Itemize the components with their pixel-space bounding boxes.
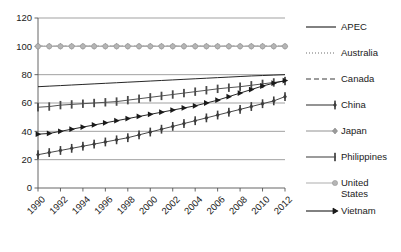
marker-bar: [172, 90, 174, 98]
y-tick-label-20: 20: [21, 154, 32, 165]
legend-label: Australia: [341, 47, 379, 58]
legend-label: Japan: [341, 125, 367, 136]
marker-circle: [148, 44, 153, 49]
marker-bar: [138, 95, 140, 103]
marker-bar: [48, 102, 50, 110]
marker-bar: [116, 97, 118, 105]
marker-bar: [206, 86, 208, 94]
marker-bar: [127, 96, 129, 104]
marker-bar: [104, 98, 106, 106]
marker-circle: [92, 44, 97, 49]
legend-label: Philippines: [341, 151, 387, 162]
marker-circle: [332, 180, 337, 185]
legend-label: United: [341, 177, 368, 188]
y-tick-label-40: 40: [21, 126, 32, 137]
marker-bar: [37, 103, 39, 111]
marker-circle: [125, 44, 130, 49]
y-tick-label-0: 0: [27, 182, 32, 193]
marker-bar: [82, 100, 84, 108]
marker-circle: [260, 44, 265, 49]
marker-circle: [204, 44, 209, 49]
marker-circle: [226, 44, 231, 49]
marker-bar: [60, 101, 62, 109]
marker-circle: [80, 44, 85, 49]
marker-bar: [239, 83, 241, 91]
marker-circle: [193, 44, 198, 49]
marker-bar: [194, 87, 196, 95]
marker-circle: [47, 44, 52, 49]
marker-bar: [149, 93, 151, 101]
marker-circle: [114, 44, 119, 49]
marker-circle: [159, 44, 164, 49]
marker-bar: [334, 153, 336, 161]
marker-circle: [69, 44, 74, 49]
marker-bar: [183, 89, 185, 97]
marker-circle: [237, 44, 242, 49]
marker-circle: [215, 44, 220, 49]
series-united-states: [35, 44, 287, 49]
y-tick-label-80: 80: [21, 69, 32, 80]
y-tick-label-60: 60: [21, 97, 32, 108]
marker-circle: [136, 44, 141, 49]
marker-circle: [103, 44, 108, 49]
marker-bar: [228, 84, 230, 92]
marker-circle: [271, 44, 276, 49]
marker-bar: [217, 85, 219, 93]
legend-label: APEC: [341, 21, 367, 32]
marker-circle: [170, 44, 175, 49]
y-tick-label-100: 100: [16, 41, 32, 52]
y-tick-label-120: 120: [16, 12, 32, 23]
line-chart-figure: 020406080100120 199019921994199619982000…: [0, 0, 401, 252]
marker-circle: [58, 44, 63, 49]
marker-circle: [282, 44, 287, 49]
legend-label: Vietnam: [341, 205, 376, 216]
marker-circle: [35, 44, 40, 49]
legend-label: China: [341, 99, 367, 110]
legend-label: Canada: [341, 73, 375, 84]
marker-bar: [161, 92, 163, 100]
marker-bar: [71, 100, 73, 108]
marker-bar: [93, 99, 95, 107]
marker-circle: [181, 44, 186, 49]
legend-label: States: [341, 188, 368, 199]
marker-circle: [249, 44, 254, 49]
